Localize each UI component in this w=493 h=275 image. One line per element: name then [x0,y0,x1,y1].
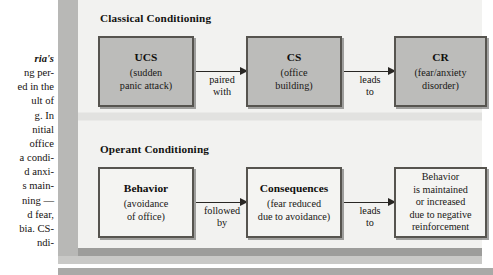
arrow-label-line: paired [209,74,234,85]
flow-box-subtitle-line: of office) [127,211,165,222]
arrow-label-line: leads [360,205,381,216]
body-text-line: ed in the [0,80,54,94]
arrow-shaft [344,202,388,203]
arrow-label-leads-to-operant: leads to [342,205,398,230]
page-bottom-rule [58,268,493,275]
flow-box-behavior-maintained: Behavior is maintained or increased due … [394,167,487,238]
body-text-line: nitial [0,123,54,137]
panel-shadow-lower [58,256,482,264]
arrow-label-followed-by: followed by [194,205,250,230]
flow-box-subtitle-line: is maintained [413,184,468,195]
arrow-label-line: by [217,217,227,228]
arrow-label-paired-with: paired with [194,74,250,99]
arrow-shaft [196,202,240,203]
arrow-label-leads-to-classical: leads to [342,74,398,99]
flow-box-subtitle-line: panic attack) [120,80,172,91]
flow-box-ucs: UCS (sudden panic attack) [98,36,194,107]
body-text-line: g. In [0,109,54,123]
body-text-column: ria's ng per- ed in the ult of g. In nit… [0,52,54,250]
flow-box-title: UCS [135,51,158,64]
flow-box-subtitle: (fear/anxiety disorder) [410,67,470,92]
body-text-line: a condi- [0,151,54,165]
body-text-line: ng per- [0,66,54,80]
flow-box-title: Consequences [260,182,328,195]
flow-box-title: Behavior [124,182,168,195]
flow-box-subtitle: (sudden panic attack) [116,67,176,92]
body-text-line: s main- [0,179,54,193]
arrow-label-line: leads [360,74,381,85]
arrow-label-line: followed [204,205,240,216]
flow-box-cs: CS (office building) [246,36,342,107]
flow-box-subtitle-line: (fear reduced [267,198,321,209]
section-heading-operant-conditioning: Operant Conditioning [100,143,209,155]
flow-box-subtitle-line: (fear/anxiety [414,67,466,78]
flow-box-subtitle-line: or increased [416,196,466,207]
flow-box-cr: CR (fear/anxiety disorder) [394,36,487,107]
panel-shadow-upper [78,248,482,256]
flow-box-subtitle: Behavior is maintained or increased due … [405,171,475,233]
body-text-line: ndi- [0,236,54,250]
flow-box-title: CR [432,51,448,64]
flow-box-subtitle-line: (avoidance [124,198,169,209]
flow-box-subtitle-line: disorder) [422,80,459,91]
flow-box-subtitle-line: Behavior [422,171,459,182]
flow-box-subtitle: (fear reduced due to avoidance) [254,198,334,223]
flow-box-subtitle-line: due to avoidance) [258,211,330,222]
flow-box-subtitle-line: (sudden [130,67,162,78]
arrow-label-line: to [366,86,374,97]
arrow-shaft [196,71,240,72]
flow-box-subtitle-line: building) [275,80,312,91]
arrow-label-line: to [366,217,374,228]
flow-box-subtitle: (avoidance of office) [120,198,173,223]
flow-box-title: CS [287,51,302,64]
body-text-line: ning — [0,194,54,208]
flow-box-subtitle: (office building) [271,67,316,92]
body-text-line: d anxi- [0,165,54,179]
section-heading-classical-conditioning: Classical Conditioning [100,12,211,24]
flow-box-subtitle-line: reinforcement [412,221,469,232]
body-text-line: ria's [0,52,54,66]
body-text-line: d fear, [0,208,54,222]
body-text-line: bia. CS- [0,222,54,236]
arrow-shaft [344,71,388,72]
flow-box-subtitle-line: due to negative [409,209,471,220]
panel-left-band [58,0,78,264]
arrow-label-line: with [213,86,231,97]
body-text-line: ult of [0,94,54,108]
flow-box-subtitle-line: (office [281,67,308,78]
page-root: ria's ng per- ed in the ult of g. In nit… [0,0,493,275]
body-text-line: office [0,137,54,151]
flow-box-consequences: Consequences (fear reduced due to avoida… [246,167,342,238]
flow-box-behavior: Behavior (avoidance of office) [98,167,194,238]
